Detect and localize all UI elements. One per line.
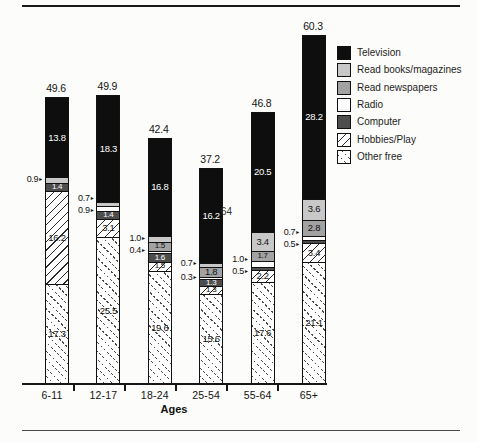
segment-value-label: 3.4 [303, 243, 325, 263]
axis-label-55-64: 55-64 [234, 389, 282, 401]
axis-label-65: 65+ [285, 389, 333, 401]
axis-label-18-24: 18-24 [131, 389, 179, 401]
other-free-swatch-icon [337, 150, 351, 164]
legend-label: Radio [357, 99, 383, 110]
segment-value-label: 18.3 [97, 96, 119, 202]
legend-label: Computer [357, 116, 401, 127]
segment-value-label: 21.1 [303, 262, 325, 384]
axis-label-12-17: 12-17 [79, 389, 127, 401]
segment-value-label: 17.6 [252, 282, 274, 384]
arrow-right-icon: ▸ [193, 274, 196, 280]
outside-value-label: 0.5▸ [218, 266, 248, 276]
legend-label: Read books/magazines [357, 64, 462, 75]
arrow-right-icon: ▸ [296, 229, 299, 235]
outside-value-label: 0.9▸ [63, 205, 93, 215]
bar-total-label: 49.9 [85, 80, 129, 92]
arrow-right-icon: ▸ [193, 260, 196, 266]
segment-value-label: 20.5 [252, 113, 274, 231]
bar-6-11: 13.81.416.217.3 [45, 97, 69, 385]
bar-65: 28.23.62.83.421.1 [302, 35, 326, 385]
radio-swatch-icon [337, 98, 351, 112]
segment-value-label: 25.5 [97, 237, 119, 384]
bar-total-label: 46.8 [240, 97, 284, 109]
axis-label-25-54: 25-54 [182, 389, 230, 401]
segment-value-label: 2.2 [252, 270, 274, 283]
axis-label-6-11: 6-11 [28, 389, 76, 401]
x-axis-title: Ages [124, 403, 224, 415]
computer-swatch-icon [337, 115, 351, 129]
arrow-right-icon: ▸ [39, 176, 42, 182]
bar-total-label: 37.2 [188, 153, 232, 165]
segment-value-label: 2.8 [303, 220, 325, 236]
outside-value-label: 0.9▸ [12, 174, 42, 184]
arrow-right-icon: ▸ [142, 247, 145, 253]
x-axis-line [22, 383, 327, 385]
arrow-right-icon: ▸ [91, 195, 94, 201]
segment-value-label: 13.8 [46, 98, 68, 178]
arrow-right-icon: ▸ [245, 256, 248, 262]
read-newspapers-swatch-icon [337, 81, 351, 95]
segment-value-label: 1.7 [252, 251, 274, 261]
legend-label: Hobbies/Play [357, 134, 416, 145]
outside-value-label: 1.0▸ [218, 254, 248, 264]
bar-total-label: 60.3 [291, 20, 335, 32]
segment-value-label: 3.6 [303, 199, 325, 220]
segment-value-label: 16.8 [149, 139, 171, 236]
bar-total-label: 49.6 [34, 82, 78, 94]
outside-value-label: 0.7▸ [166, 258, 196, 268]
legend-label: Other free [357, 151, 402, 162]
bar-25-54: 16.21.81.31.315.6 [199, 168, 223, 385]
segment-value-label: 1.4 [97, 211, 119, 219]
bottom-rule [22, 430, 460, 431]
segment-value-label: 19.6 [149, 271, 171, 384]
legend-label: Television [357, 47, 401, 58]
arrow-right-icon: ▸ [91, 207, 94, 213]
segment-value-label: 1.4 [46, 183, 68, 191]
segment-value-label: 28.2 [303, 36, 325, 199]
hobbies-play-swatch-icon [337, 133, 351, 147]
segment-value-label: 16.2 [200, 169, 222, 262]
arrow-right-icon: ▸ [245, 268, 248, 274]
bar-total-label: 42.4 [137, 123, 181, 135]
segment-value-label: 1.5 [149, 242, 171, 251]
television-swatch-icon [337, 46, 351, 60]
stray-label: 64 [221, 206, 232, 217]
segment-value-label: 17.3 [46, 284, 68, 384]
segment-value-label: 1.3 [200, 286, 222, 294]
arrow-right-icon: ▸ [296, 241, 299, 247]
read-books-magazines-swatch-icon [337, 63, 351, 77]
outside-value-label: 0.4▸ [115, 245, 145, 255]
outside-value-label: 0.5▸ [269, 239, 299, 249]
outside-value-label: 1.0▸ [115, 233, 145, 243]
outside-value-label: 0.7▸ [269, 227, 299, 237]
outside-value-label: 0.7▸ [63, 193, 93, 203]
segment-value-label: 15.6 [200, 294, 222, 384]
outside-value-label: 0.3▸ [166, 272, 196, 282]
arrow-right-icon: ▸ [142, 235, 145, 241]
legend-label: Read newspapers [357, 82, 438, 93]
